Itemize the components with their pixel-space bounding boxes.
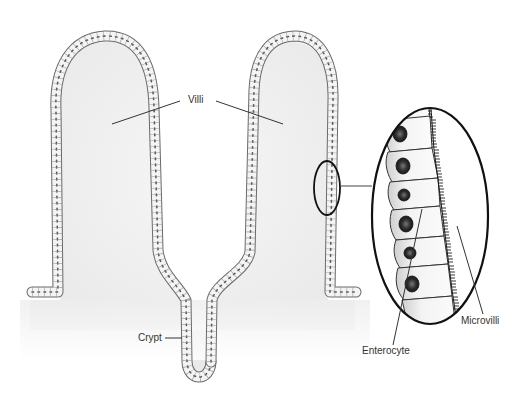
- label-crypt: Crypt: [138, 332, 162, 343]
- diagram-canvas: [0, 0, 528, 396]
- label-enterocyte: Enterocyte: [362, 345, 410, 356]
- label-villi: Villi: [188, 94, 203, 105]
- magnified-enterocytes: [370, 88, 490, 340]
- label-microvilli: Microvilli: [461, 315, 499, 326]
- villi-diagram: Villi Crypt Enterocyte Microvilli: [0, 0, 528, 396]
